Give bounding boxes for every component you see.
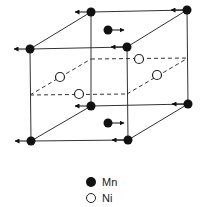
ni-atom <box>135 55 144 64</box>
ni-atoms <box>56 55 162 99</box>
mn-atom <box>124 136 133 145</box>
mn-atom <box>26 45 35 54</box>
legend-item-ni: Ni <box>86 192 112 204</box>
ni-atom <box>75 90 84 99</box>
mn-atoms <box>26 6 193 146</box>
mn-atom <box>87 102 96 111</box>
mn-atom <box>183 6 192 15</box>
mid-plane-dashed-edges <box>30 58 188 95</box>
legend-label-mn: Mn <box>102 176 117 188</box>
cell-edge <box>31 106 91 141</box>
mn-atom-icon <box>86 177 96 187</box>
legend-item-mn: Mn <box>86 176 117 188</box>
mn-atom <box>184 100 193 109</box>
cell-edge <box>30 12 91 49</box>
cell-edge <box>127 10 187 47</box>
legend-label-ni: Ni <box>102 192 112 204</box>
mn-atom <box>104 26 113 35</box>
ni-atom <box>153 71 162 80</box>
mn-atom <box>87 8 96 17</box>
mn-atom <box>27 137 36 146</box>
mn-atom <box>123 43 132 52</box>
cell-edge <box>128 104 188 140</box>
ni-atom <box>56 73 65 82</box>
mn-atom <box>104 119 113 128</box>
ni-atom-icon <box>86 193 96 203</box>
cell-edge <box>187 10 188 104</box>
